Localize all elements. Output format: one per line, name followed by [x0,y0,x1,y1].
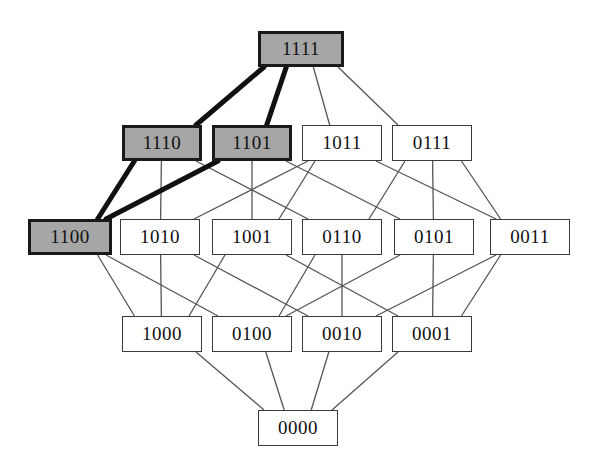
lattice-node-label: 1011 [322,133,361,152]
lattice-node-0000[interactable]: 0000 [258,410,338,446]
lattice-edge-0111-0110 [369,161,405,219]
lattice-node-label: 0111 [413,133,452,152]
lattice-node-label: 1111 [282,39,320,58]
lattice-node-label: 0011 [510,227,549,246]
lattice-node-label: 1110 [143,133,182,152]
lattice-node-0100[interactable]: 0100 [212,316,292,352]
lattice-edge-1010-0010 [194,255,308,316]
lattice-node-0001[interactable]: 0001 [392,316,472,352]
lattice-edge-0111-0011 [461,161,500,219]
lattice-node-1010[interactable]: 1010 [120,219,200,255]
lattice-node-1101[interactable]: 1101 [212,125,292,161]
lattice-edge-0111-0101 [433,161,434,219]
lattice-edge-1100-1000 [98,255,135,316]
lattice-edge-1001-1000 [189,255,225,316]
lattice-node-label: 1000 [142,324,182,343]
lattice-edge-1000-0000 [196,352,264,410]
lattice-edge-0101-0001 [433,255,434,316]
lattice-edge-1101-1100 [106,161,218,219]
lattice-edge-1111-0111 [338,67,398,125]
lattice-node-1111[interactable]: 1111 [258,31,344,67]
lattice-node-label: 1101 [232,133,271,152]
lattice-node-label: 0001 [412,324,452,343]
lattice-edge-1110-1100 [98,161,135,219]
lattice-edge-0011-0001 [461,255,500,316]
lattice-node-label: 1010 [140,227,180,246]
lattice-edge-1011-0011 [376,161,496,219]
lattice-node-label: 0100 [232,324,272,343]
lattice-edge-0110-0100 [279,255,315,316]
lattice-node-0111[interactable]: 0111 [392,125,472,161]
lattice-node-label: 0110 [322,227,361,246]
lattice-node-1110[interactable]: 1110 [122,125,202,161]
lattice-node-0110[interactable]: 0110 [302,219,382,255]
lattice-edge-1011-1001 [279,161,315,219]
lattice-node-0011[interactable]: 0011 [490,219,570,255]
hasse-diagram-canvas: 1111111011011011011111001010100101100101… [0,0,591,476]
lattice-edge-1010-1000 [161,255,162,316]
lattice-edge-1101-0101 [286,161,400,219]
lattice-edge-0011-0010 [376,255,496,316]
lattice-node-1001[interactable]: 1001 [212,219,292,255]
lattice-edge-0001-0000 [332,352,398,410]
lattice-node-1100[interactable]: 1100 [28,219,112,255]
lattice-edge-1111-1101 [267,67,287,125]
lattice-node-label: 1100 [50,227,89,246]
lattice-node-1011[interactable]: 1011 [302,125,382,161]
lattice-node-0101[interactable]: 0101 [394,219,474,255]
lattice-node-label: 0000 [278,418,318,437]
lattice-edge-1100-0100 [106,255,218,316]
lattice-node-label: 0101 [414,227,454,246]
lattice-edge-0010-0000 [311,352,329,410]
lattice-node-1000[interactable]: 1000 [122,316,202,352]
lattice-edge-1111-1110 [196,67,264,125]
lattice-edge-0100-0000 [266,352,284,410]
lattice-node-label: 0010 [322,324,362,343]
lattice-node-0010[interactable]: 0010 [302,316,382,352]
lattice-node-label: 1001 [232,227,272,246]
lattice-edge-1111-1011 [313,67,329,125]
